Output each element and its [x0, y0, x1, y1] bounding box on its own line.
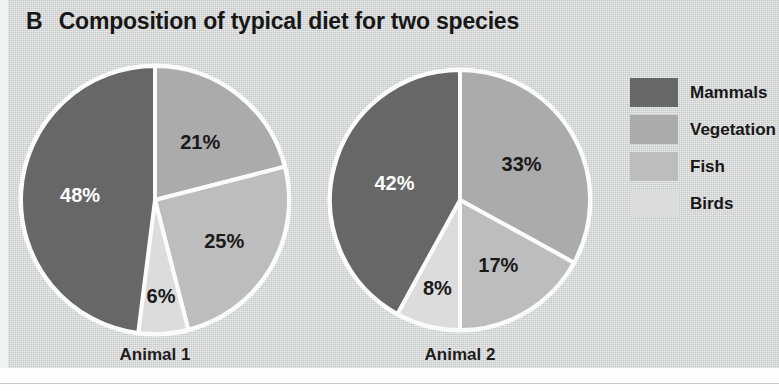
pie-slice-value-fish: 25%: [204, 230, 244, 252]
pie-chart-2: 33%17%8%42%: [324, 64, 596, 336]
legend-swatch-vegetation: [630, 115, 678, 144]
page-bottom-band: [0, 368, 779, 391]
pie-svg: 33%17%8%42%: [324, 64, 596, 336]
page-left-margin: [0, 0, 8, 391]
pie-slice-value-mammals: 42%: [375, 172, 415, 194]
legend-swatch-birds: [630, 189, 678, 218]
legend-item: Birds: [630, 185, 776, 222]
pie-caption-2: Animal 2: [395, 345, 525, 365]
legend-item: Mammals: [630, 74, 776, 111]
pie-caption-1: Animal 1: [90, 345, 220, 365]
legend-label: Fish: [690, 157, 725, 177]
pie-chart-1: 21%25%6%48%: [15, 60, 295, 340]
pie-slice-value-mammals: 48%: [60, 184, 100, 206]
legend-label: Mammals: [690, 83, 767, 103]
legend-item: Fish: [630, 148, 776, 185]
legend-swatch-mammals: [630, 78, 678, 107]
pie-slice-value-vegetation: 33%: [502, 153, 542, 175]
figure-title-row: B Composition of typical diet for two sp…: [26, 8, 519, 35]
pie-slice-value-birds: 6%: [147, 285, 176, 307]
figure-panel-b: B Composition of typical diet for two sp…: [0, 0, 779, 391]
page-bottom-rule: [0, 383, 779, 384]
figure-title: Composition of typical diet for two spec…: [59, 8, 519, 35]
legend-item: Vegetation: [630, 111, 776, 148]
panel-letter: B: [26, 8, 43, 35]
pie-slice-value-birds: 8%: [423, 277, 452, 299]
pie-slice-value-fish: 17%: [478, 254, 518, 276]
pie-svg: 21%25%6%48%: [15, 60, 295, 340]
legend-label: Birds: [690, 194, 733, 214]
pie-slice-value-vegetation: 21%: [180, 131, 220, 153]
legend-swatch-fish: [630, 152, 678, 181]
chart-legend: MammalsVegetationFishBirds: [630, 74, 776, 222]
legend-label: Vegetation: [690, 120, 776, 140]
